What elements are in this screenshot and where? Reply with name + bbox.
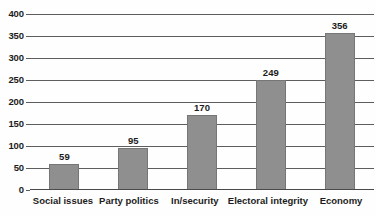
x-tick-label-party-politics: Party politics [96, 196, 162, 212]
bar-value-label: 95 [99, 136, 168, 146]
y-tick-label: 100 [0, 141, 24, 151]
bar[interactable] [325, 33, 355, 190]
bar-value-label: 59 [30, 152, 99, 162]
x-tick-label-insecurity: In/security [162, 196, 228, 212]
y-tick-label: 50 [0, 163, 24, 173]
bar[interactable] [256, 80, 286, 190]
y-tick-label: 0 [0, 185, 24, 195]
y-tick-label: 150 [0, 119, 24, 129]
y-tick-label: 350 [0, 31, 24, 41]
y-tick-label: 300 [0, 53, 24, 63]
bar-slot: 59 [30, 14, 99, 190]
y-tick-label: 250 [0, 75, 24, 85]
x-tick-label-electoral-integrity: Electoral integrity [228, 196, 308, 212]
bar-slot: 249 [236, 14, 305, 190]
bar-value-label: 356 [305, 21, 374, 31]
bar-slot: 95 [99, 14, 168, 190]
y-axis: 400 350 300 250 200 150 100 50 0 [0, 0, 24, 216]
x-axis-labels: Social issues Party politics In/security… [30, 196, 374, 212]
bar-value-label: 170 [168, 103, 237, 113]
x-tick-label-social-issues: Social issues [30, 196, 96, 212]
bar-slot: 356 [305, 14, 374, 190]
plot-area: 59 95 170 249 356 [30, 14, 374, 190]
x-axis-baseline [30, 189, 374, 190]
bar-slot: 170 [168, 14, 237, 190]
bar-value-label: 249 [236, 68, 305, 78]
bar-chart: 400 350 300 250 200 150 100 50 0 59 95 1… [0, 0, 376, 216]
y-tick-label: 200 [0, 97, 24, 107]
y-tick-label: 400 [0, 9, 24, 19]
bar[interactable] [187, 115, 217, 190]
y-tick-mark [26, 190, 30, 191]
bar[interactable] [49, 164, 79, 190]
bar-series: 59 95 170 249 356 [30, 14, 374, 190]
x-tick-label-economy: Economy [308, 196, 374, 212]
bar[interactable] [118, 148, 148, 190]
